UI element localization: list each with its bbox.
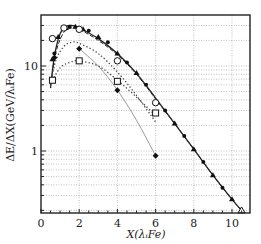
data-point-filled-circle <box>125 60 129 64</box>
x-tick-label: 0 <box>38 217 45 230</box>
data-point-filled-diamond <box>153 153 159 159</box>
data-point-open-circle <box>152 100 158 106</box>
x-axis-label: X(λᵢFe) <box>125 228 165 241</box>
y-tick-label: 10 <box>24 60 38 73</box>
data-point-filled-circle <box>144 83 148 87</box>
data-point-open-circle <box>49 35 55 41</box>
y-axis: 110 <box>24 25 46 210</box>
data-point-filled-circle <box>163 108 167 112</box>
data-point-filled-diamond <box>114 87 120 93</box>
series-curve <box>79 49 155 156</box>
data-point-filled-circle <box>68 25 72 29</box>
data-point-open-square <box>76 58 82 64</box>
x-tick-label: 4 <box>114 217 121 230</box>
data-point-open-circle <box>114 58 120 64</box>
series-curve <box>51 61 156 116</box>
x-tick-label: 8 <box>190 217 197 230</box>
data-point-filled-circle <box>106 40 110 44</box>
data-point-filled-triangle <box>95 34 101 39</box>
data-point-open-circle <box>61 25 67 31</box>
data-point-open-square <box>49 77 55 83</box>
data-point-open-square <box>114 78 120 84</box>
x-tick-label: 10 <box>225 217 239 230</box>
data-point-open-square <box>153 110 159 116</box>
y-axis-label: ΔE/ΔX(GeV/λᵢFe) <box>4 68 17 162</box>
chart: 0246810 110 X(λᵢFe) ΔE/ΔX(GeV/λᵢFe) <box>0 0 261 244</box>
data-point-filled-circle <box>87 29 91 33</box>
data-point-filled-circle <box>220 186 224 190</box>
x-axis: 0246810 <box>38 209 242 230</box>
data-point-open-circle <box>76 26 82 32</box>
series-curve <box>51 42 156 122</box>
x-tick-label: 2 <box>76 217 83 230</box>
y-tick-label: 1 <box>31 145 38 158</box>
data-point-filled-circle <box>201 160 205 164</box>
data-point-filled-circle <box>182 134 186 138</box>
